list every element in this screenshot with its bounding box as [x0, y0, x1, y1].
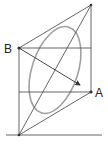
diagram-svg: B A — [0, 0, 108, 146]
geometry-diagram: B A — [0, 0, 108, 146]
point-bottom — [18, 134, 21, 137]
label-b: B — [4, 42, 12, 56]
point-top — [90, 4, 93, 7]
point-b — [17, 46, 20, 49]
label-a: A — [95, 86, 103, 100]
point-a — [89, 90, 92, 93]
